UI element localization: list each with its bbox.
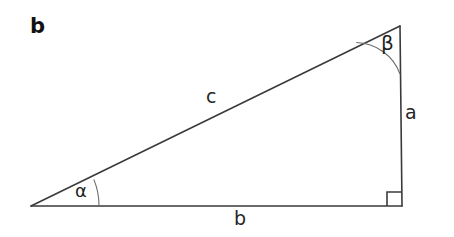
side-c-label: c	[206, 87, 216, 106]
angle-alpha-arc	[94, 179, 99, 206]
panel-label: b	[30, 16, 45, 37]
figure-canvas: b c a b α β	[0, 0, 454, 237]
side-a-line	[400, 26, 402, 206]
side-b-label: b	[234, 209, 246, 228]
side-a-label: a	[405, 103, 417, 122]
angle-alpha-label: α	[75, 182, 87, 200]
angle-beta-label: β	[381, 33, 394, 53]
right-angle-marker	[387, 192, 401, 206]
side-c-line	[31, 26, 400, 206]
